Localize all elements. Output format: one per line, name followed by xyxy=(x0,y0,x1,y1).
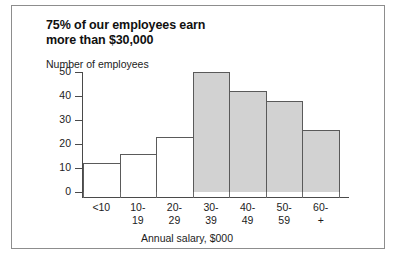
bar-60-+ xyxy=(302,130,340,192)
x-tick-1 xyxy=(120,192,121,198)
bar-<10 xyxy=(83,163,121,192)
bar-40-49 xyxy=(229,91,267,192)
bar-20-29 xyxy=(156,137,194,192)
y-tick-40 xyxy=(75,96,82,97)
x-tick-3 xyxy=(193,192,194,198)
x-axis-label: Annual salary, $000 xyxy=(12,232,385,244)
y-tick-30 xyxy=(75,120,82,121)
bar-30-39 xyxy=(193,72,231,192)
chart-title-line-2: more than $30,000 xyxy=(46,33,346,48)
plot-area xyxy=(83,72,339,192)
y-tick-20 xyxy=(75,144,82,145)
x-tick-2 xyxy=(156,192,157,198)
x-tick-6 xyxy=(302,192,303,198)
x-tick-7 xyxy=(339,192,340,198)
x-axis-line xyxy=(83,197,349,198)
y-tick-0 xyxy=(75,192,82,193)
y-tick-label-0: 0 xyxy=(42,185,71,197)
x-category-label-60-+: 60-+ xyxy=(299,201,343,227)
y-tick-label-40: 40 xyxy=(42,89,71,101)
y-tick-label-30: 30 xyxy=(42,113,71,125)
x-tick-4 xyxy=(229,192,230,198)
chart-figure: 75% of our employees earn more than $30,… xyxy=(11,5,385,249)
x-category-line: 60- xyxy=(299,201,343,214)
y-tick-10 xyxy=(75,168,82,169)
y-tick-label-50: 50 xyxy=(42,65,71,77)
chart-title: 75% of our employees earn more than $30,… xyxy=(46,18,346,47)
y-tick-label-20: 20 xyxy=(42,137,71,149)
y-tick-label-10: 10 xyxy=(42,161,71,173)
x-tick-0 xyxy=(83,192,84,198)
y-tick-50 xyxy=(75,72,82,73)
bar-10-19 xyxy=(120,154,158,192)
x-category-line: + xyxy=(299,214,343,227)
bar-50-59 xyxy=(266,101,304,192)
x-tick-5 xyxy=(266,192,267,198)
x-axis-label-text: Annual salary, $000 xyxy=(141,232,233,244)
chart-title-line-1: 75% of our employees earn xyxy=(46,18,346,33)
